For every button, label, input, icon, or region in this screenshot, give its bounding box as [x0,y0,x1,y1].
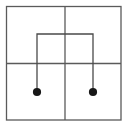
right-terminal-dot [89,88,97,96]
diagram-canvas [0,0,131,130]
diagram-svg [0,0,131,130]
left-terminal-dot [33,88,41,96]
